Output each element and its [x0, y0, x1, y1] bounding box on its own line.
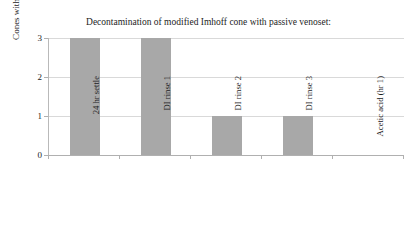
x-label-0: 24 hr settle: [90, 76, 103, 160]
y-tick-label-2: 2: [26, 72, 42, 82]
x-label-2: DI rinse 2: [232, 76, 245, 160]
chart-title-line-1: Decontamination of modified Imhoff cone …: [0, 16, 417, 29]
x-tick-mark-3: [261, 155, 262, 159]
chart-screenshot: Decontamination of modified Imhoff cone …: [0, 0, 417, 246]
x-label-1: DI rinse 1: [161, 76, 174, 160]
y-tick-label-3: 3: [26, 33, 42, 43]
x-tick-mark-5: [403, 155, 404, 159]
x-tick-mark-1: [119, 155, 120, 159]
gridline-3: [49, 38, 404, 39]
x-tick-mark-2: [190, 155, 191, 159]
y-axis-title: Cones with positive assays: [9, 0, 23, 51]
x-label-3: DI rinse 3: [303, 76, 316, 160]
y-tick-label-0: 0: [26, 150, 42, 160]
x-tick-mark-4: [332, 155, 333, 159]
x-tick-mark-0: [48, 155, 49, 159]
y-tick-label-1: 1: [26, 111, 42, 121]
x-label-4: Acetic acid (hr 1): [374, 76, 387, 160]
